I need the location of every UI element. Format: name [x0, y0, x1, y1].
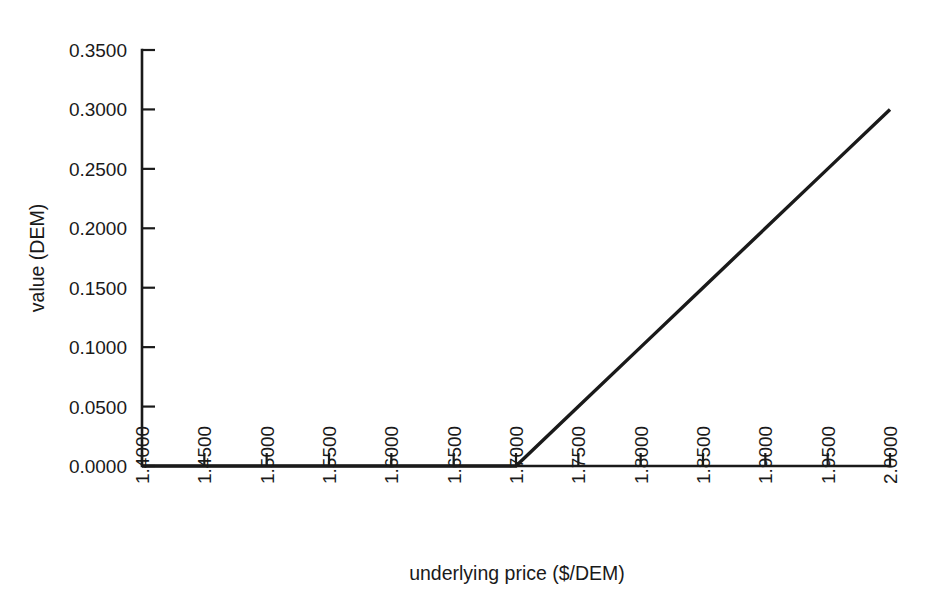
x-axis-tick-labels: 1.40001.45001.50001.55001.60001.65001.70… [132, 426, 901, 484]
x-tick-label: 1.5500 [319, 426, 340, 484]
y-tick-label: 0.1500 [69, 278, 127, 299]
x-axis-title: underlying price ($/DEM) [409, 562, 625, 584]
x-tick-label: 1.7000 [506, 426, 527, 484]
payoff-chart-svg: 0.00000.05000.10000.15000.20000.25000.30… [0, 0, 929, 612]
series-lines [142, 109, 890, 466]
y-tick-label: 0.0000 [69, 456, 127, 477]
x-tick-label: 1.4000 [132, 426, 153, 484]
axes-group [142, 50, 890, 466]
y-tick-label: 0.1000 [69, 337, 127, 358]
y-tick-label: 0.3500 [69, 40, 127, 61]
y-tick-label: 0.2500 [69, 159, 127, 180]
chart-container: 0.00000.05000.10000.15000.20000.25000.30… [0, 0, 929, 612]
y-tick-label: 0.3000 [69, 99, 127, 120]
x-tick-label: 1.9000 [755, 426, 776, 484]
axis-spine [142, 50, 890, 466]
y-tick-label: 0.0500 [69, 397, 127, 418]
x-tick-label: 1.8000 [631, 426, 652, 484]
x-tick-label: 1.7500 [568, 426, 589, 484]
x-tick-label: 1.9500 [818, 426, 839, 484]
y-axis-title: value (DEM) [26, 204, 48, 312]
x-tick-label: 1.4500 [194, 426, 215, 484]
series-line [142, 109, 890, 466]
y-tick-label: 0.2000 [69, 218, 127, 239]
x-tick-label: 1.6500 [444, 426, 465, 484]
x-tick-label: 2.0000 [880, 426, 901, 484]
y-axis-tick-labels: 0.00000.05000.10000.15000.20000.25000.30… [69, 40, 127, 477]
x-tick-label: 1.5000 [257, 426, 278, 484]
x-tick-label: 1.8500 [693, 426, 714, 484]
x-tick-label: 1.6000 [381, 426, 402, 484]
y-axis-ticks [142, 50, 155, 466]
